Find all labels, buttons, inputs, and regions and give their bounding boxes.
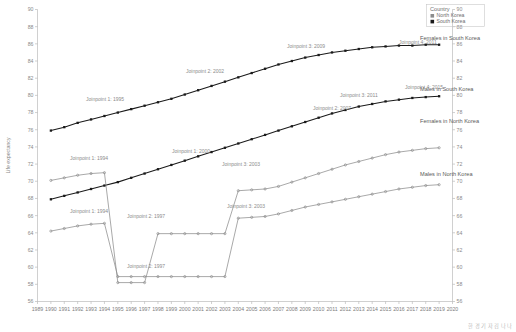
data-point [251,138,253,140]
data-point [50,129,52,131]
y-tick-label: 74 [457,144,463,150]
data-point [358,105,360,107]
y-tick-label: 76 [457,127,463,133]
x-tick-label: 2018 [420,306,432,312]
joinpoint-label: Joinpoint 1: 2000 [172,148,210,154]
series-females-in-north-korea [50,147,440,284]
y-tick-label: 56 [457,298,463,304]
x-tick-label: 2012 [340,306,352,312]
data-point [157,168,159,170]
y-tick-label: 86 [457,41,463,47]
data-point [77,191,79,193]
x-tick-label: 2003 [219,306,231,312]
data-point [170,164,172,166]
y-tick-label: 62 [457,247,463,253]
x-tick-label: 2020 [447,306,459,312]
data-point [184,93,186,95]
data-point [317,117,319,119]
x-tick-label: 2001 [192,306,204,312]
x-tick-label: 2019 [433,306,445,312]
data-point [291,60,293,62]
y-axis-left-ticks: 565860626466687072747678808284868890 [28,6,38,304]
y-tick-label: 66 [28,213,34,219]
y-tick-label: 78 [28,109,34,115]
data-point [264,134,266,136]
data-point [331,112,333,114]
y-tick-label: 86 [28,41,34,47]
series-males-in-south-korea [50,95,441,200]
x-tick-label: 2004 [233,306,245,312]
legend-swatch-north-korea[interactable] [431,14,435,18]
y-tick-label: 60 [28,264,34,270]
series-line [51,45,439,131]
y-tick-label: 58 [28,281,34,287]
data-point [77,122,79,124]
x-axis-ticks: 1989199019911992199319941995199619971998… [32,302,459,312]
series-end-label: Males in North Korea [420,171,473,177]
chart-container: 565860626466687072747678808284868890 565… [0,0,516,332]
data-point [184,160,186,162]
series-line [51,185,439,277]
x-tick-label: 1992 [72,306,84,312]
legend-label-south-korea[interactable]: South Korea [437,18,466,24]
series-females-in-south-korea [50,44,441,132]
data-point [358,48,360,50]
y-tick-label: 74 [28,144,34,150]
y-tick-label: 78 [457,109,463,115]
joinpoint-label: Joinpoint 2: 1997 [127,263,165,269]
joinpoint-label: Joinpoint 3: 2009 [287,43,325,49]
x-tick-label: 1990 [45,306,57,312]
joinpoint-label: Joinpoint 4: 2015 [405,84,443,90]
life-expectancy-joinpoint-chart: 565860626466687072747678808284868890 565… [0,0,516,332]
series-line [51,96,439,199]
joinpoint-label: Joinpoint 3: 2003 [222,161,260,167]
data-point [438,95,440,97]
x-tick-label: 2016 [393,306,405,312]
joinpoint-label: Joinpoint 3: 2003 [227,203,265,209]
x-tick-label: 2009 [299,306,311,312]
data-point [50,198,52,200]
data-point [103,184,105,186]
data-point [210,151,212,153]
x-tick-label: 2017 [407,306,419,312]
joinpoint-label: Joinpoint 2: 1997 [127,213,165,219]
y-tick-label: 84 [457,58,463,64]
legend-swatch-south-korea[interactable] [431,20,435,24]
data-point [344,50,346,52]
x-tick-label: 2011 [326,306,337,312]
data-point [90,118,92,120]
series-end-label: Females in North Korea [420,118,480,124]
x-tick-label: 2002 [206,306,218,312]
data-point [425,96,427,98]
x-tick-label: 2015 [380,306,392,312]
data-point [277,129,279,131]
data-point [224,147,226,149]
x-tick-label: 1994 [99,306,111,312]
data-point [438,184,440,186]
y-tick-label: 82 [457,75,463,81]
joinpoint-label: Joinpoint 2: 2007 [313,105,351,111]
y-tick-label: 70 [28,178,34,184]
y-tick-label: 82 [28,75,34,81]
y-tick-label: 62 [28,247,34,253]
series-males-in-north-korea [50,184,440,278]
x-tick-label: 1993 [85,306,97,312]
x-tick-label: 1989 [32,306,44,312]
data-point [291,125,293,127]
data-point [117,181,119,183]
x-tick-label: 2010 [313,306,325,312]
joinpoint-label: Joinpoint 4: 2011 [399,39,437,45]
data-point [264,68,266,70]
y-tick-label: 68 [28,195,34,201]
data-point [130,108,132,110]
series-label-layer: Females in South KoreaMales in South Kor… [420,35,481,177]
data-point [143,105,145,107]
x-tick-label: 1991 [59,306,71,312]
y-tick-label: 64 [457,230,463,236]
data-point [130,177,132,179]
data-point [224,80,226,82]
x-tick-label: 1997 [139,306,151,312]
data-point [117,111,119,113]
data-point [143,172,145,174]
y-tick-label: 80 [28,92,34,98]
